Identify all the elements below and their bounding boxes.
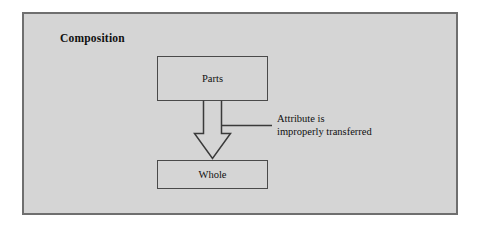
diagram-canvas: Composition Parts Whole Attribute is imp… <box>0 0 481 230</box>
node-whole-label: Whole <box>199 169 227 180</box>
node-parts-label: Parts <box>202 73 223 84</box>
annotation-text: Attribute is improperly transferred <box>277 112 372 138</box>
annotation-line-1: Attribute is <box>277 112 372 125</box>
node-whole[interactable]: Whole <box>157 160 268 189</box>
panel-title: Composition <box>60 32 125 44</box>
annotation-line-2: improperly transferred <box>277 125 372 138</box>
node-parts[interactable]: Parts <box>157 56 268 101</box>
